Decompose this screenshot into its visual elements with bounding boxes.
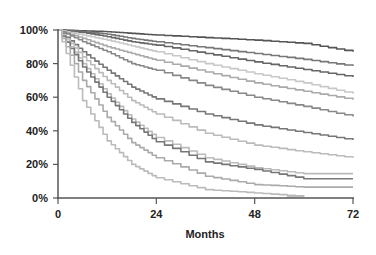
x-tick-label: 72: [347, 208, 359, 220]
survival-chart: 0%20%40%60%80%100% 0244872 Months: [0, 0, 376, 255]
x-tick-label: 48: [249, 208, 261, 220]
y-tick-label: 100%: [20, 24, 48, 36]
x-axis-title: Months: [185, 228, 224, 240]
y-tick-label: 80%: [26, 58, 48, 70]
x-ticks-group: 0244872: [55, 198, 359, 220]
y-ticks-group: 0%20%40%60%80%100%: [20, 24, 58, 204]
y-tick-label: 40%: [26, 125, 48, 137]
y-tick-label: 0%: [32, 192, 48, 204]
x-tick-label: 24: [150, 208, 163, 220]
y-tick-label: 20%: [26, 158, 48, 170]
curves-group: [58, 30, 353, 197]
x-tick-label: 0: [55, 208, 61, 220]
y-tick-label: 60%: [26, 91, 48, 103]
